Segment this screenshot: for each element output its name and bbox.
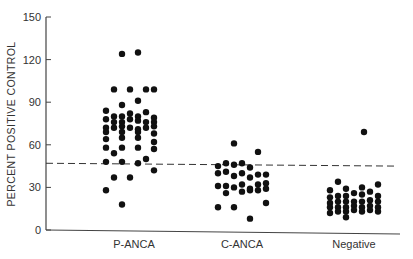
- data-point: [119, 144, 125, 150]
- data-point: [247, 215, 253, 221]
- data-point: [239, 188, 245, 194]
- data-point: [239, 160, 245, 166]
- data-points: [103, 49, 381, 222]
- data-point: [215, 204, 221, 210]
- data-point: [135, 135, 141, 141]
- data-point: [359, 208, 365, 214]
- data-point: [359, 191, 365, 197]
- x-axis-line: [46, 230, 400, 234]
- data-point: [343, 214, 349, 220]
- data-point: [135, 117, 141, 123]
- y-axis: 0306090120150: [23, 11, 51, 236]
- data-point: [343, 193, 349, 199]
- series-p-anca: [103, 49, 157, 207]
- data-point: [151, 167, 157, 173]
- data-point: [215, 163, 221, 169]
- data-point: [127, 110, 133, 116]
- data-point: [135, 49, 141, 55]
- data-point: [135, 129, 141, 135]
- data-point: [119, 159, 125, 165]
- data-point: [327, 187, 333, 193]
- data-point: [119, 201, 125, 207]
- data-point: [119, 51, 125, 57]
- data-point: [247, 174, 253, 180]
- data-point: [327, 204, 333, 210]
- data-point: [151, 130, 157, 136]
- data-point: [103, 129, 109, 135]
- series-c-anca: [215, 140, 269, 222]
- data-point: [351, 207, 357, 213]
- y-tick-label: 30: [29, 181, 41, 193]
- data-point: [127, 86, 133, 92]
- data-point: [135, 144, 141, 150]
- data-point: [343, 186, 349, 192]
- data-point: [375, 193, 381, 199]
- data-point: [247, 164, 253, 170]
- y-axis-title: PERCENT POSITIVE CONTROL: [5, 41, 17, 206]
- data-point: [231, 184, 237, 190]
- data-point: [375, 208, 381, 214]
- data-point: [127, 125, 133, 131]
- data-point: [327, 210, 333, 216]
- data-point: [375, 181, 381, 187]
- data-point: [127, 174, 133, 180]
- data-point: [127, 116, 133, 122]
- data-point: [103, 136, 109, 142]
- data-point: [119, 129, 125, 135]
- data-point: [239, 181, 245, 187]
- data-point: [231, 140, 237, 146]
- data-point: [143, 119, 149, 125]
- data-point: [361, 129, 367, 135]
- data-point: [111, 174, 117, 180]
- data-point: [215, 170, 221, 176]
- data-point: [247, 187, 253, 193]
- data-point: [343, 198, 349, 204]
- y-tick-label: 60: [29, 139, 41, 151]
- data-point: [143, 156, 149, 162]
- data-point: [151, 146, 157, 152]
- data-point: [335, 193, 341, 199]
- y-tick-label: 0: [35, 224, 41, 236]
- data-point: [231, 173, 237, 179]
- data-point: [119, 135, 125, 141]
- data-point: [119, 102, 125, 108]
- data-point: [375, 198, 381, 204]
- threshold-line: [46, 163, 397, 166]
- data-point: [255, 149, 261, 155]
- data-point: [223, 190, 229, 196]
- data-point: [119, 123, 125, 129]
- data-point: [135, 160, 141, 166]
- data-point: [103, 187, 109, 193]
- data-point: [223, 169, 229, 175]
- data-point: [111, 119, 117, 125]
- data-point: [119, 113, 125, 119]
- data-point: [367, 188, 373, 194]
- category-label: C-ANCA: [221, 238, 264, 250]
- threshold-dashed-line: [46, 163, 397, 166]
- x-axis: [46, 230, 400, 234]
- data-point: [151, 123, 157, 129]
- data-point: [255, 181, 261, 187]
- data-point: [111, 125, 117, 131]
- data-point: [351, 190, 357, 196]
- data-point: [255, 187, 261, 193]
- data-point: [103, 159, 109, 165]
- data-point: [367, 197, 373, 203]
- data-point: [367, 207, 373, 213]
- data-point: [263, 171, 269, 177]
- data-point: [343, 208, 349, 214]
- data-point: [143, 125, 149, 131]
- data-point: [231, 161, 237, 167]
- data-point: [111, 113, 117, 119]
- data-point: [335, 208, 341, 214]
- y-tick-label: 90: [29, 96, 41, 108]
- data-point: [223, 160, 229, 166]
- data-point: [263, 186, 269, 192]
- data-point: [143, 86, 149, 92]
- data-point: [223, 183, 229, 189]
- data-point: [103, 108, 109, 114]
- data-point: [263, 180, 269, 186]
- data-point: [151, 86, 157, 92]
- y-tick-label: 150: [23, 11, 41, 23]
- category-label: P-ANCA: [113, 238, 155, 250]
